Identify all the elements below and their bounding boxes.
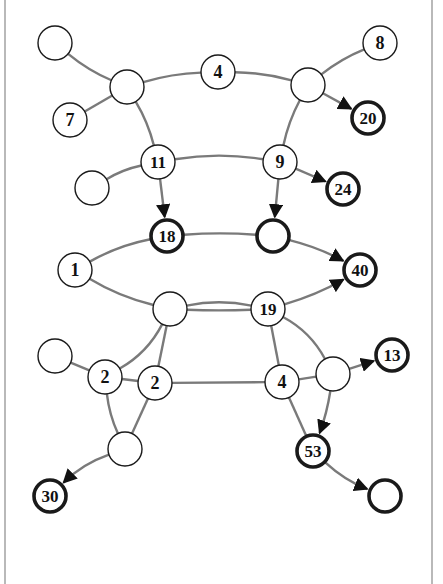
node-30: 30 bbox=[34, 480, 66, 512]
node-18: 18 bbox=[151, 220, 183, 252]
node-label: 13 bbox=[384, 346, 401, 365]
node-7: 7 bbox=[53, 103, 87, 137]
edge-layer bbox=[63, 49, 373, 489]
node-empty bbox=[110, 70, 144, 104]
bold-node-circle bbox=[257, 220, 289, 252]
edge bbox=[68, 54, 111, 80]
edge bbox=[71, 363, 90, 371]
node-label: 30 bbox=[42, 487, 59, 506]
node-20: 20 bbox=[352, 102, 384, 134]
directed-edge bbox=[160, 179, 165, 217]
node-label: 9 bbox=[276, 152, 285, 172]
edge bbox=[158, 326, 166, 367]
node-53: 53 bbox=[297, 435, 329, 467]
edge bbox=[175, 156, 263, 160]
bold-node-circle bbox=[369, 480, 401, 512]
directed-edge bbox=[289, 240, 343, 261]
node-empty bbox=[291, 68, 325, 102]
node-label: 20 bbox=[360, 109, 377, 128]
edge bbox=[132, 398, 148, 433]
node-8: 8 bbox=[363, 26, 397, 60]
node-circle bbox=[38, 339, 72, 373]
node-40: 40 bbox=[344, 254, 376, 286]
node-4: 4 bbox=[265, 365, 299, 399]
node-circle bbox=[75, 171, 109, 205]
node-19: 19 bbox=[251, 292, 285, 326]
directed-edge bbox=[323, 93, 351, 109]
directed-edge bbox=[325, 463, 367, 490]
edge bbox=[107, 166, 142, 180]
node-4: 4 bbox=[201, 55, 235, 89]
edge bbox=[136, 102, 154, 146]
node-circle bbox=[108, 432, 142, 466]
node-empty bbox=[75, 171, 109, 205]
edge bbox=[299, 377, 316, 380]
node-circle bbox=[316, 357, 350, 391]
node-label: 2 bbox=[151, 373, 160, 393]
directed-edge bbox=[63, 455, 108, 483]
node-circle bbox=[110, 70, 144, 104]
node-empty bbox=[369, 480, 401, 512]
node-circle bbox=[153, 292, 187, 326]
edge bbox=[187, 302, 252, 305]
graph-svg: 74820119241814019224133053 bbox=[0, 0, 443, 584]
edge bbox=[90, 279, 154, 305]
node-label: 1 bbox=[71, 260, 80, 280]
node-2: 2 bbox=[138, 366, 172, 400]
edge bbox=[85, 96, 113, 112]
edge bbox=[283, 100, 300, 145]
node-1: 1 bbox=[58, 253, 92, 287]
node-circle bbox=[38, 26, 72, 60]
node-label: 4 bbox=[278, 372, 287, 392]
node-label: 11 bbox=[150, 153, 166, 172]
directed-edge bbox=[284, 279, 343, 304]
node-empty bbox=[38, 339, 72, 373]
directed-edge bbox=[275, 179, 279, 217]
diagram-canvas: 74820119241814019224133053 bbox=[0, 0, 443, 584]
edge bbox=[187, 310, 251, 311]
node-empty bbox=[38, 26, 72, 60]
node-label: 19 bbox=[260, 300, 277, 319]
node-empty bbox=[153, 292, 187, 326]
edge bbox=[184, 233, 256, 234]
edge bbox=[235, 72, 292, 80]
node-label: 18 bbox=[159, 227, 176, 246]
node-label: 4 bbox=[214, 62, 223, 82]
edge bbox=[120, 324, 162, 368]
directed-edge bbox=[320, 391, 331, 433]
node-circle bbox=[291, 68, 325, 102]
node-9: 9 bbox=[263, 145, 297, 179]
node-13: 13 bbox=[376, 339, 408, 371]
node-11: 11 bbox=[141, 145, 175, 179]
edge bbox=[271, 326, 279, 366]
node-label: 8 bbox=[376, 33, 385, 53]
node-empty bbox=[257, 220, 289, 252]
node-24: 24 bbox=[327, 173, 359, 205]
node-empty bbox=[108, 432, 142, 466]
node-layer: 74820119241814019224133053 bbox=[34, 26, 408, 512]
node-2: 2 bbox=[88, 360, 122, 394]
directed-edge bbox=[349, 361, 374, 369]
node-label: 2 bbox=[101, 367, 110, 387]
edge bbox=[321, 49, 364, 74]
edge bbox=[90, 239, 151, 261]
edge bbox=[107, 394, 118, 434]
node-empty bbox=[316, 357, 350, 391]
edge bbox=[283, 317, 325, 359]
node-label: 24 bbox=[335, 180, 353, 199]
node-label: 7 bbox=[66, 110, 75, 130]
edge bbox=[143, 73, 201, 83]
edge bbox=[172, 382, 265, 383]
directed-edge bbox=[296, 169, 326, 182]
node-label: 53 bbox=[305, 442, 322, 461]
edge bbox=[289, 398, 306, 436]
edge bbox=[122, 379, 138, 381]
node-label: 40 bbox=[352, 261, 369, 280]
